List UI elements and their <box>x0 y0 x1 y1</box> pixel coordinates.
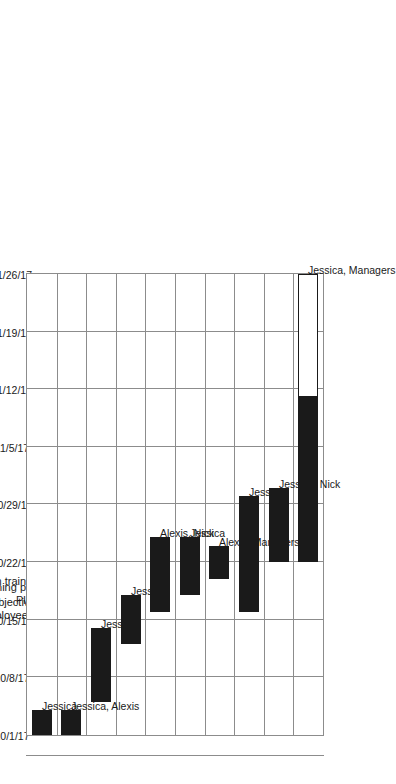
task-bar-progress[interactable] <box>239 496 259 611</box>
task-bar-remaining[interactable] <box>298 274 318 397</box>
task-row[interactable]: Jessica, Nick <box>264 274 294 735</box>
task-bar-progress[interactable] <box>209 546 229 579</box>
task-bar-progress[interactable] <box>61 710 81 735</box>
task-row[interactable]: Alexis, Managers <box>205 274 235 735</box>
task-bar-progress[interactable] <box>269 488 289 562</box>
task-bar-progress[interactable] <box>298 397 318 562</box>
task-row[interactable]: Jessica <box>116 274 146 735</box>
task-bar-progress[interactable] <box>150 537 170 611</box>
task-row[interactable]: Jessica <box>86 274 116 735</box>
task-row[interactable]: Jessica <box>175 274 205 735</box>
task-bar-progress[interactable] <box>32 710 52 735</box>
task-bar-progress[interactable] <box>91 628 111 702</box>
task-row[interactable]: Jessica, Managers <box>293 274 323 735</box>
task-bar-progress[interactable] <box>121 595 141 644</box>
task-row[interactable]: Alexis, Nick <box>145 274 175 735</box>
task-row[interactable]: Jessica <box>27 274 57 735</box>
task-resource-label: Jessica, Managers <box>308 265 396 276</box>
time-axis-tick-label: 11/5/17 <box>0 443 29 454</box>
task-row[interactable]: Jessica, Alexis <box>57 274 87 735</box>
plot-area: JessicaJessica, AlexisJessicaJessicaAlex… <box>26 273 324 736</box>
task-row[interactable]: Jessica <box>234 274 264 735</box>
task-bar-progress[interactable] <box>180 537 200 595</box>
outer-axis-rule <box>26 755 324 756</box>
